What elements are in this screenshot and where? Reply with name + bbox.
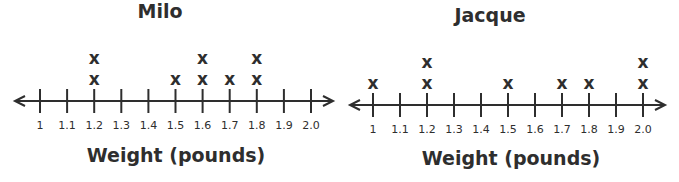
milo-tick-label: 1.9 xyxy=(275,119,293,132)
jacque-x-mark: x xyxy=(422,52,433,72)
jacque-tick-label: 1.1 xyxy=(391,123,409,136)
milo-x-mark: x xyxy=(89,69,100,89)
milo-x-mark: x xyxy=(197,69,208,89)
jacque-tick-label: 1.7 xyxy=(553,123,571,136)
jacque-tick-label: 1.5 xyxy=(499,123,517,136)
jacque-tick-label: 1.8 xyxy=(580,123,598,136)
milo-tick-label: 2.0 xyxy=(302,119,320,132)
milo-axis-label: Weight (pounds) xyxy=(56,144,296,166)
milo-tick-label: 1.6 xyxy=(194,119,212,132)
milo-tick-label: 1 xyxy=(37,119,44,132)
jacque-x-mark: x xyxy=(422,73,433,93)
jacque-tick-label: 1 xyxy=(370,123,377,136)
jacque-x-mark: x xyxy=(638,73,649,93)
jacque-x-mark: x xyxy=(584,73,595,93)
jacque-dot-plot: Jacque 1x1.11.2xx1.31.41.5x1.61.7x1.8x1.… xyxy=(340,0,679,182)
milo-x-mark: x xyxy=(197,48,208,68)
milo-x-mark: x xyxy=(251,48,262,68)
jacque-axis-label: Weight (pounds) xyxy=(391,147,631,169)
milo-tick-label: 1.2 xyxy=(85,119,103,132)
milo-x-mark: x xyxy=(251,69,262,89)
milo-dot-plot: Milo 11.11.2xx1.31.41.5x1.6xx1.7x1.8xx1.… xyxy=(0,0,340,182)
jacque-tick-label: 1.4 xyxy=(472,123,490,136)
jacque-tick-label: 1.3 xyxy=(445,123,463,136)
milo-x-mark: x xyxy=(89,48,100,68)
jacque-x-mark: x xyxy=(557,73,568,93)
jacque-x-mark: x xyxy=(503,73,514,93)
jacque-x-mark: x xyxy=(368,73,379,93)
jacque-tick-label: 1.2 xyxy=(418,123,436,136)
milo-tick-label: 1.7 xyxy=(221,119,239,132)
jacque-tick-label: 2.0 xyxy=(634,123,652,136)
milo-tick-label: 1.8 xyxy=(248,119,266,132)
jacque-tick-label: 1.6 xyxy=(526,123,544,136)
milo-tick-label: 1.5 xyxy=(167,119,185,132)
milo-x-mark: x xyxy=(224,69,235,89)
jacque-tick-label: 1.9 xyxy=(607,123,625,136)
jacque-x-mark: x xyxy=(638,52,649,72)
milo-tick-label: 1.4 xyxy=(140,119,158,132)
milo-x-mark: x xyxy=(170,69,181,89)
milo-tick-label: 1.3 xyxy=(113,119,131,132)
milo-tick-label: 1.1 xyxy=(58,119,76,132)
